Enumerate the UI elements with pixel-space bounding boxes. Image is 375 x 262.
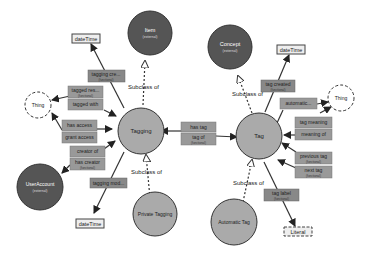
svg-text:(functional): (functional)	[191, 141, 206, 145]
svg-text:tag label: tag label	[272, 190, 291, 196]
node-datetime-bottom-left[interactable]: dateTime	[76, 219, 104, 228]
edge-tagged-with	[104, 110, 116, 116]
prop-tag-of[interactable]: tag of (functional)	[181, 133, 216, 145]
node-item-label: Item	[145, 27, 156, 33]
prop-has-tag[interactable]: has tag	[181, 122, 216, 132]
node-automatic-tag-label: Automatic Tag	[218, 219, 250, 225]
prop-has-access[interactable]: has access	[62, 120, 97, 131]
node-private-tagging[interactable]: Private Tagging	[133, 192, 177, 236]
svg-text:(functional): (functional)	[271, 88, 286, 92]
prop-next-tag[interactable]: next tag (functional)	[295, 166, 332, 178]
subclass-label-private: Subclass of	[131, 169, 162, 175]
subclass-label-concept: Subclass of	[232, 91, 263, 97]
prop-tagging-modified[interactable]: tagging mod...	[90, 178, 127, 188]
node-datetime-right[interactable]: dateTime	[277, 45, 305, 54]
svg-text:tagging cre...: tagging cre...	[92, 71, 121, 77]
node-concept-sub: (external)	[223, 49, 238, 53]
subclass-label-item: Subclass of	[128, 84, 159, 90]
svg-text:(functional): (functional)	[99, 78, 114, 82]
svg-text:tagging mod...: tagging mod...	[93, 180, 125, 186]
node-useraccount-sub: (external)	[33, 189, 48, 193]
prop-automatic[interactable]: automatic...	[280, 98, 317, 109]
prop-tag-created[interactable]: tag created (functional)	[261, 80, 295, 92]
svg-text:next tag: next tag	[305, 167, 323, 173]
edge-automatic-thing	[317, 102, 328, 104]
edge-subclass-private	[146, 155, 150, 198]
prop-meaning-of[interactable]: meaning of	[295, 129, 332, 140]
node-datetime-bottom-left-label: dateTime	[79, 221, 102, 227]
svg-text:(functional): (functional)	[306, 160, 321, 164]
prop-creator-of[interactable]: creator of	[70, 146, 105, 157]
edge-has-creator-useraccount	[62, 165, 70, 173]
svg-text:automatic...: automatic...	[286, 100, 312, 106]
edge-tagged-resource	[52, 96, 70, 100]
node-thing-left[interactable]: Thing	[25, 92, 51, 118]
svg-text:previous tag: previous tag	[300, 153, 327, 159]
prop-previous-tag[interactable]: previous tag (functional)	[295, 152, 332, 164]
node-tag[interactable]: Tag	[236, 113, 282, 159]
node-useraccount[interactable]: UserAccount (external)	[17, 164, 63, 210]
node-automatic-tag[interactable]: Automatic Tag	[211, 199, 257, 245]
svg-text:has access: has access	[67, 122, 93, 128]
svg-text:tagged res...: tagged res...	[72, 87, 100, 93]
prop-tagging-created[interactable]: tagging cre... (functional)	[88, 70, 125, 82]
prop-tagged-resource[interactable]: tagged res... (functional)	[68, 86, 103, 98]
svg-text:(functional): (functional)	[80, 166, 95, 170]
node-literal-label: Literal	[291, 229, 306, 235]
edge-automatic-tag	[277, 110, 283, 123]
svg-text:(functional): (functional)	[306, 174, 321, 178]
prop-grant-access[interactable]: grant access	[62, 132, 97, 143]
node-concept[interactable]: Concept (external)	[208, 25, 252, 69]
node-tagging-label: Tagging	[130, 128, 151, 134]
svg-text:grant access: grant access	[65, 134, 94, 140]
edge-creator-of-tagging	[104, 141, 115, 149]
edge-previous-tag	[282, 143, 296, 152]
svg-text:tag of: tag of	[192, 134, 205, 140]
node-datetime-top-left[interactable]: dateTime	[72, 34, 100, 43]
edge-tag-of	[216, 136, 237, 137]
node-literal[interactable]: Literal	[284, 227, 312, 236]
prop-tagged-with[interactable]: tagged with	[68, 99, 103, 110]
svg-text:tag meaning: tag meaning	[300, 119, 328, 125]
edge-next-tag	[278, 160, 296, 168]
node-thing-right-label: Thing	[335, 95, 348, 101]
node-datetime-right-label: dateTime	[280, 47, 303, 53]
subclass-label-automatic: Subclass of	[233, 180, 264, 186]
svg-text:has creator: has creator	[75, 159, 100, 165]
node-item[interactable]: Item (external)	[128, 11, 172, 55]
svg-text:tag created: tag created	[265, 81, 290, 87]
edge-has-access-thing	[52, 113, 62, 130]
edge-tag-meaning-thing	[320, 107, 331, 113]
node-useraccount-label: UserAccount	[26, 181, 55, 187]
svg-text:(functional): (functional)	[274, 197, 289, 201]
prop-tag-meaning[interactable]: tag meaning	[295, 117, 332, 128]
node-tag-label: Tag	[254, 133, 264, 139]
svg-text:creator of: creator of	[77, 148, 99, 154]
node-concept-label: Concept	[220, 41, 241, 47]
node-datetime-top-left-label: dateTime	[75, 36, 98, 42]
node-private-tagging-label: Private Tagging	[138, 211, 173, 217]
node-thing-left-label: Thing	[32, 102, 45, 108]
node-item-sub: (external)	[143, 35, 158, 39]
svg-text:has tag: has tag	[190, 124, 207, 130]
svg-text:meaning of: meaning of	[301, 131, 326, 137]
svg-text:tagged with: tagged with	[73, 101, 99, 107]
edge-subclass-item	[143, 61, 145, 105]
node-tagging[interactable]: Tagging	[118, 108, 164, 154]
prop-tag-label[interactable]: tag label (functional)	[264, 189, 299, 201]
prop-has-creator[interactable]: has creator (functional)	[70, 158, 105, 170]
svg-text:(functional): (functional)	[78, 94, 93, 98]
node-thing-right[interactable]: Thing	[328, 85, 354, 111]
